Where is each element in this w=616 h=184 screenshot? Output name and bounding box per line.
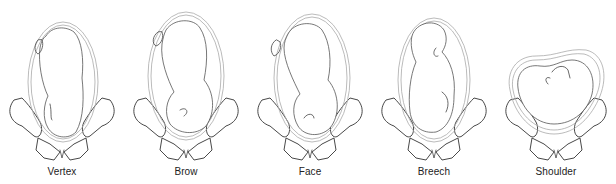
fetus xyxy=(284,24,337,135)
label-breech: Breech xyxy=(372,166,496,177)
label-face: Face xyxy=(248,166,372,177)
label-vertex: Vertex xyxy=(0,166,124,177)
panel-brow: Brow xyxy=(124,0,248,184)
panel-breech: Breech xyxy=(372,0,496,184)
panel-face: Face xyxy=(248,0,372,184)
label-shoulder: Shoulder xyxy=(496,166,616,177)
panel-vertex: Vertex xyxy=(0,0,124,184)
vertex-illustration xyxy=(0,0,124,166)
shoulder-illustration xyxy=(496,0,616,166)
brow-illustration xyxy=(124,0,248,166)
breech-illustration xyxy=(372,0,496,166)
panel-shoulder: Shoulder xyxy=(496,0,616,184)
fetus xyxy=(162,21,213,133)
face-illustration xyxy=(248,0,372,166)
fetus xyxy=(409,23,454,132)
label-brow: Brow xyxy=(124,166,248,177)
fetus xyxy=(39,28,83,137)
